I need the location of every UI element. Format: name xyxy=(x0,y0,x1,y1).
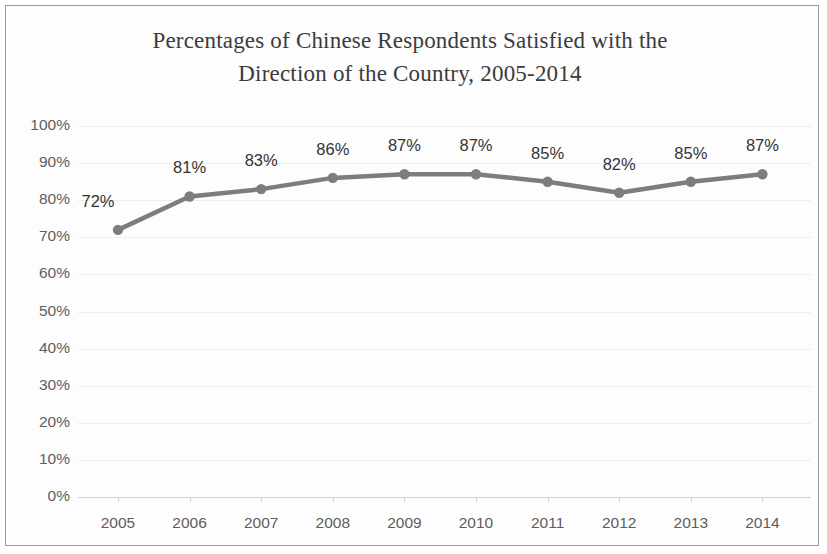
data-point-label: 81% xyxy=(150,158,230,177)
y-axis-tick-label: 30% xyxy=(8,376,70,394)
y-axis-tick-label: 20% xyxy=(8,413,70,431)
x-axis-tick-label: 2011 xyxy=(512,514,584,532)
y-axis-tick-label: 70% xyxy=(8,227,70,245)
x-axis-tick-mark xyxy=(619,497,620,502)
y-axis-tick-label: 0% xyxy=(8,487,70,505)
gridline xyxy=(78,274,811,275)
y-axis-tick-label: 60% xyxy=(8,264,70,282)
data-point-marker xyxy=(757,169,767,179)
data-point-marker xyxy=(256,184,266,194)
x-axis-line xyxy=(78,497,811,498)
x-axis-tick-label: 2008 xyxy=(297,514,369,532)
data-point-marker xyxy=(328,173,338,183)
data-point-label: 87% xyxy=(436,136,516,155)
data-point-label: 87% xyxy=(722,136,802,155)
gridline xyxy=(78,126,811,127)
x-axis-tick-label: 2006 xyxy=(154,514,226,532)
x-axis-tick-label: 2012 xyxy=(583,514,655,532)
data-point-label: 87% xyxy=(364,136,444,155)
x-axis-tick-mark xyxy=(118,497,119,502)
data-point-marker xyxy=(113,225,123,235)
gridline xyxy=(78,349,811,350)
data-point-marker xyxy=(399,169,409,179)
x-axis-tick-label: 2007 xyxy=(225,514,297,532)
x-axis-tick-mark xyxy=(261,497,262,502)
data-series-line xyxy=(0,0,827,554)
y-axis-tick-label: 90% xyxy=(8,153,70,171)
x-axis-tick-mark xyxy=(691,497,692,502)
data-point-label: 85% xyxy=(508,144,588,163)
x-axis-tick-label: 2010 xyxy=(440,514,512,532)
x-axis-tick-mark xyxy=(548,497,549,502)
gridline xyxy=(78,423,811,424)
data-point-label: 85% xyxy=(651,144,731,163)
data-point-label: 86% xyxy=(293,140,373,159)
plot-area: 100%90%80%70%60%50%40%30%20%10%0% 200520… xyxy=(0,0,827,554)
data-point-label: 83% xyxy=(221,151,301,170)
chart-image: Percentages of Chinese Respondents Satis… xyxy=(0,0,827,554)
gridline xyxy=(78,460,811,461)
gridline xyxy=(78,312,811,313)
x-axis-tick-label: 2005 xyxy=(82,514,154,532)
gridline xyxy=(78,200,811,201)
x-axis-tick-mark xyxy=(404,497,405,502)
y-axis-tick-label: 40% xyxy=(8,339,70,357)
data-point-marker xyxy=(471,169,481,179)
data-point-label: 72% xyxy=(58,192,138,211)
x-axis-tick-label: 2013 xyxy=(655,514,727,532)
gridline xyxy=(78,237,811,238)
x-axis-tick-mark xyxy=(333,497,334,502)
x-axis-tick-label: 2009 xyxy=(368,514,440,532)
y-axis-tick-label: 100% xyxy=(8,116,70,134)
y-axis-tick-label: 10% xyxy=(8,450,70,468)
series-polyline xyxy=(118,174,762,230)
y-axis-tick-label: 50% xyxy=(8,302,70,320)
data-point-label: 82% xyxy=(579,155,659,174)
data-point-marker xyxy=(686,177,696,187)
x-axis-tick-label: 2014 xyxy=(726,514,798,532)
data-point-marker xyxy=(614,188,624,198)
x-axis-tick-mark xyxy=(190,497,191,502)
x-axis-tick-mark xyxy=(762,497,763,502)
series-markers xyxy=(113,169,768,235)
x-axis-tick-mark xyxy=(476,497,477,502)
gridline xyxy=(78,386,811,387)
data-point-marker xyxy=(542,177,552,187)
